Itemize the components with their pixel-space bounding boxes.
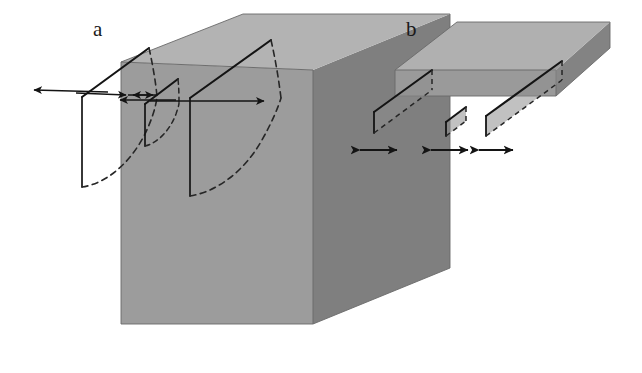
figure-container: a — [0, 0, 642, 373]
crack-geometry-figure: a — [0, 0, 642, 373]
panel-a-label: a — [93, 17, 103, 41]
block-a-body — [121, 14, 450, 324]
panel-b-label: b — [406, 17, 417, 41]
